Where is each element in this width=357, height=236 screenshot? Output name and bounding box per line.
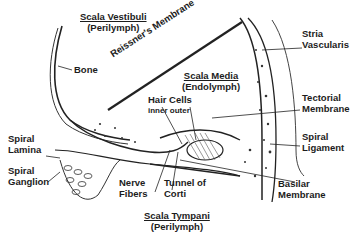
- scala-media-label: Scala Media (Endolymph): [182, 70, 240, 92]
- tunnel-of-corti-label: Tunnel of Corti: [164, 177, 206, 199]
- spiral-ligament-label: Spiral Ligament: [302, 131, 344, 153]
- scala-tympani-name: Scala Tympani: [144, 210, 210, 221]
- nerve-line-2: Fibers: [119, 188, 148, 199]
- basilar-line-1: Basilar: [278, 178, 326, 189]
- tectorial-line-2: Membrane: [302, 103, 350, 114]
- spiral-ligament-line-2: Ligament: [302, 142, 344, 153]
- spiral-ganglion-line-2: Ganglion: [8, 176, 49, 187]
- spiral-lamina-label: Spiral Lamina: [8, 133, 41, 155]
- stria-vascularis-wall: [240, 18, 262, 200]
- organ-of-corti: [187, 140, 223, 160]
- scala-tympani-fluid: (Perilymph): [144, 221, 210, 232]
- outer-bone: [272, 20, 304, 176]
- basilar-line-2: Membrane: [278, 189, 326, 200]
- tectorial-membrane-label: Tectorial Membrane: [302, 92, 350, 114]
- hair-cells-sub: inner outer: [148, 105, 192, 116]
- spiral-lamina-line-1: Spiral: [8, 133, 41, 144]
- tunnel-line-1: Tunnel of: [164, 177, 206, 188]
- spiral-limbus: [70, 120, 188, 153]
- scala-tympani-label: Scala Tympani (Perilymph): [144, 210, 210, 232]
- scala-vestibuli-name: Scala Vestibuli: [80, 11, 147, 22]
- tectorial-membrane: [160, 130, 240, 140]
- spiral-lamina-line-2: Lamina: [8, 144, 41, 155]
- spiral-ganglion-cells: [64, 166, 92, 195]
- nerve-line-1: Nerve: [119, 177, 148, 188]
- spiral-ganglion-line-1: Spiral: [8, 165, 49, 176]
- scala-media-name: Scala Media: [182, 70, 240, 81]
- stria-line-1: Stria: [302, 28, 349, 39]
- hair-cells-title: Hair Cells: [148, 94, 192, 105]
- tunnel-line-2: Corti: [164, 188, 206, 199]
- nerve-fibers-label: Nerve Fibers: [119, 177, 148, 199]
- stria-line-2: Vascularis: [302, 39, 349, 50]
- tectorial-line-1: Tectorial: [302, 92, 350, 103]
- basilar-membrane-label: Basilar Membrane: [278, 178, 326, 200]
- basilar-membrane: [150, 164, 240, 176]
- stria-vascularis-label: Stria Vascularis: [302, 28, 349, 50]
- scala-vestibuli-label: Scala Vestibuli (Perilymph): [80, 11, 147, 33]
- spiral-ganglion-label: Spiral Ganglion: [8, 165, 49, 187]
- spiral-ligament-line-1: Spiral: [302, 131, 344, 142]
- scala-media-fluid: (Endolymph): [182, 81, 240, 92]
- hair-cells-label: Hair Cells inner outer: [148, 94, 192, 116]
- bone-label: Bone: [74, 64, 98, 75]
